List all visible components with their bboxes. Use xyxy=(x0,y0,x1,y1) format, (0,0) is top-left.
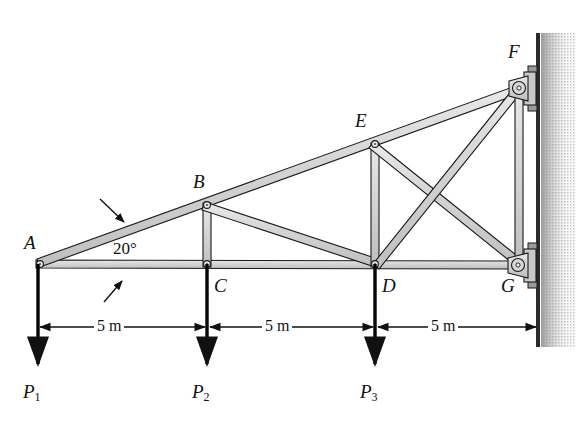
load-label-P2: P2 xyxy=(192,382,210,403)
truss-figure: A B C D E F G 20° 5 m 5 m 5 m P1 P2 P3 xyxy=(0,0,580,427)
joint-label-D: D xyxy=(382,276,396,295)
load-label-P1-subscript: 1 xyxy=(35,390,41,404)
member-wall-post-F-G xyxy=(515,88,523,265)
dimension-label-D-G: 5 m xyxy=(428,318,458,334)
truss-members xyxy=(36,84,524,269)
joint-label-C: C xyxy=(214,276,227,295)
joint-label-A: A xyxy=(24,233,36,252)
member-bottom-chord-A-G xyxy=(36,260,524,269)
joint-label-F: F xyxy=(508,42,520,61)
member-vertical-E-D xyxy=(371,143,379,267)
dimension-label-C-D: 5 m xyxy=(262,318,292,334)
load-label-P1-base: P xyxy=(23,381,35,402)
joint-pin-E xyxy=(372,141,379,148)
angle-leader-bottom-arrow xyxy=(104,281,122,302)
dimension-label-A-C: 5 m xyxy=(94,318,124,334)
joint-label-G: G xyxy=(501,276,515,295)
load-label-P3-subscript: 3 xyxy=(372,390,378,404)
load-label-P2-subscript: 2 xyxy=(204,390,210,404)
truss-drawing xyxy=(0,0,580,427)
support-wall xyxy=(538,33,577,347)
load-label-P3-base: P xyxy=(360,381,372,402)
joint-label-B: B xyxy=(193,172,205,191)
joint-pin-B xyxy=(204,202,211,209)
joint-label-E: E xyxy=(355,111,367,130)
angle-label-20deg: 20° xyxy=(113,240,137,257)
load-label-P2-base: P xyxy=(192,381,204,402)
angle-leader-top-arrow xyxy=(100,199,124,222)
member-diagonal-B-D xyxy=(202,202,378,267)
load-label-P1: P1 xyxy=(23,382,41,403)
wall-hatch-texture xyxy=(541,33,575,347)
load-arrows xyxy=(38,264,375,364)
load-label-P3: P3 xyxy=(360,382,378,403)
